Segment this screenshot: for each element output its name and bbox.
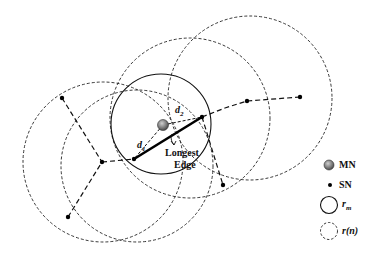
legend (321, 160, 338, 240)
sensor-range-circle (110, 38, 270, 198)
mobile-node (158, 120, 169, 131)
sensor-node (100, 160, 104, 164)
d1-label: d1 (137, 140, 146, 153)
legend-rn-label: r(n) (342, 226, 358, 236)
edge (68, 162, 102, 217)
arrowhead-icon (171, 141, 176, 145)
legend-mn-icon (324, 160, 334, 170)
edge (202, 117, 223, 185)
edge (202, 97, 300, 117)
legend-rm-label: rm (342, 199, 351, 212)
longest-edge-label-line1: Longest (165, 148, 199, 158)
edge (62, 98, 102, 162)
sensor-node (132, 157, 136, 161)
sensor-node (66, 215, 70, 219)
legend-mn-label: MN (339, 160, 356, 170)
legend-sn-icon (328, 183, 332, 187)
legend-sn-label: SN (339, 180, 352, 190)
sensor-node (200, 115, 204, 119)
sensor-node (298, 95, 302, 99)
edge (102, 159, 134, 162)
legend-dashed-circle-icon (321, 223, 338, 240)
sensor-node (245, 99, 249, 103)
diagram-svg (0, 0, 375, 256)
sensor-node (221, 183, 225, 187)
d2-label: d2 (175, 105, 184, 118)
longest-edge-label-line2: Edge (174, 160, 196, 170)
legend-solid-circle-icon (321, 197, 338, 214)
sensor-coverage-circles (23, 16, 332, 242)
sensor-node (60, 96, 64, 100)
diagram-canvas: d1 d2 Longest Edge MN SN rm r(n) (0, 0, 375, 256)
